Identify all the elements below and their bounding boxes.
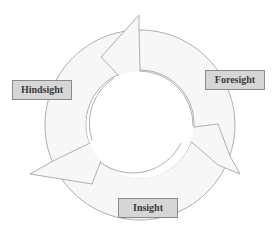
label-insight: Insight bbox=[118, 198, 178, 218]
label-hindsight: Hindsight bbox=[12, 80, 72, 100]
label-foresight: Foresight bbox=[205, 70, 265, 90]
cycle-diagram bbox=[0, 0, 274, 231]
